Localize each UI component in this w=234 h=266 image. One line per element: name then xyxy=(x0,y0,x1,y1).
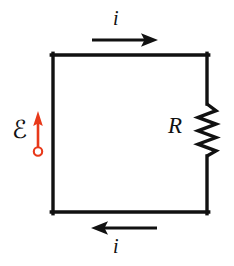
resistor-zigzag xyxy=(198,104,216,156)
emf-label: ℰ xyxy=(12,117,27,142)
current-arrow-top xyxy=(92,33,158,47)
emf-source xyxy=(33,111,43,156)
current-label-top: i xyxy=(113,8,119,28)
emf-terminal-circle xyxy=(34,147,42,155)
resistance-label: R xyxy=(168,114,182,137)
resistor xyxy=(198,104,216,156)
circuit-diagram-figure: i i R ℰ xyxy=(0,0,234,266)
current-label-bottom: i xyxy=(113,236,119,256)
circuit-loop xyxy=(51,53,208,213)
current-arrow-bottom xyxy=(91,221,157,235)
circuit-diagram-canvas xyxy=(0,0,234,266)
